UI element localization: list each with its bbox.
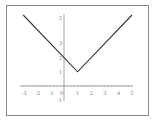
data-line [23,15,132,72]
x-tick-label: 0 [60,90,63,96]
line-chart: -3-2-1012345 -11235 [0,0,155,125]
x-tick-labels: -3-2-1012345 [22,90,134,96]
x-tick-label: -3 [22,90,27,96]
y-tick-label: 1 [59,69,62,75]
x-tick-label: -1 [49,90,54,96]
x-tick-label: 3 [103,90,106,96]
x-tick-label: 5 [131,90,134,96]
x-tick-label: 4 [117,90,120,96]
y-tick-label: 5 [59,15,62,21]
x-tick-label: 2 [90,90,93,96]
y-tick-label: 3 [59,40,62,46]
x-tick-label: 1 [76,90,79,96]
x-tick-label: -2 [35,90,40,96]
y-tick-label: -1 [57,97,62,103]
